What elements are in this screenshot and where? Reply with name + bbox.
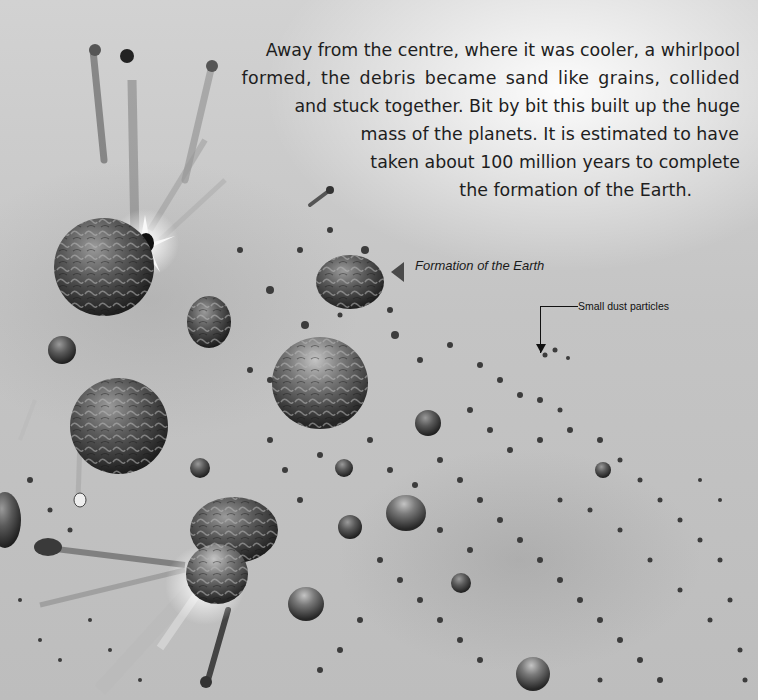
body-line: Away from the centre, where it was coole… — [180, 36, 740, 64]
arrow-down-icon — [536, 344, 546, 353]
body-line: the formation of the Earth. — [180, 176, 692, 204]
caption-pointer-icon — [391, 262, 404, 282]
body-line: mass of the planets. It is estimated to … — [180, 120, 739, 148]
body-paragraph: Away from the centre, where it was coole… — [180, 36, 740, 204]
dust-caption: Small dust particles — [578, 300, 669, 312]
body-line: and stuck together. Bit by bit this buil… — [180, 92, 740, 120]
body-line: formed, the debris became sand like grai… — [180, 64, 740, 92]
body-line: taken about 100 million years to complet… — [180, 148, 740, 176]
formation-caption: Formation of the Earth — [415, 258, 544, 273]
